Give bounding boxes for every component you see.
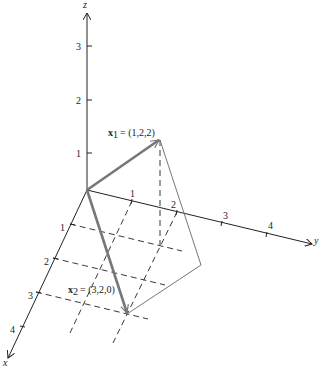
z-tick-2: 2 (76, 95, 81, 106)
x-tick-2: 2 (44, 256, 49, 267)
y-ticks: 1 2 3 4 y (130, 188, 319, 246)
vector-x1 (87, 140, 159, 190)
xy-grid-dashed (36, 140, 182, 343)
parallelogram-edges (127, 140, 201, 314)
x-tick-4: 4 (10, 324, 15, 335)
y-tick-1: 1 (130, 188, 135, 199)
y-tick-3: 3 (223, 210, 228, 221)
x-axis-label: x (2, 357, 8, 368)
x2-label: x2= (3,2,0) (68, 284, 115, 297)
y-tick-2: 2 (171, 199, 176, 210)
x-ticks: 1 2 3 4 x (2, 222, 75, 368)
vector-diagram: 1 2 3 z 1 2 3 4 y 1 2 3 4 x (0, 0, 322, 368)
z-tick-1: 1 (76, 148, 81, 159)
y-tick-4: 4 (268, 220, 273, 231)
x-tick-1: 1 (60, 222, 65, 233)
x1-label: x1= (1,2,2) (108, 127, 155, 140)
z-ticks: 1 2 3 z (76, 0, 92, 159)
z-axis-label: z (82, 0, 87, 10)
x-axis (8, 190, 87, 358)
y-axis-label: y (313, 235, 319, 246)
x-tick-3: 3 (28, 290, 33, 301)
z-tick-3: 3 (76, 41, 81, 52)
